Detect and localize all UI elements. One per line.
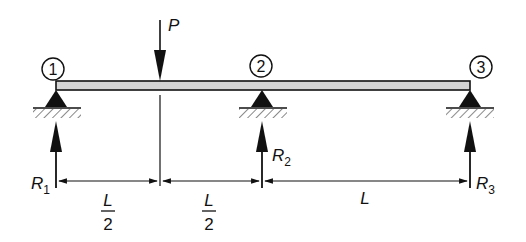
dimension-2: L 2 [163,181,259,234]
dimension-2-denominator: 2 [204,215,213,234]
reaction-label-r1: R1 [31,174,50,197]
arrow-up-icon [256,121,268,152]
node-label-1: 1 [49,61,58,78]
ground-hatch-icon [33,109,81,118]
dimension-2-numerator: L [204,191,213,210]
node-marker-2: 2 [250,55,272,77]
ground-hatch-icon [446,109,494,118]
pin-support-2 [239,90,287,118]
node-label-3: 3 [477,59,486,76]
pin-support-1 [33,90,81,118]
ground-hatch-icon [239,109,287,118]
node-marker-3: 3 [470,56,492,78]
arrow-up-icon [50,121,62,152]
node-marker-1: 1 [42,58,64,80]
reaction-arrow-r3: R3 [464,121,495,197]
reaction-arrow-r2: R2 [256,121,291,188]
dimension-1-denominator: 2 [103,215,112,234]
dimension-1-numerator: L [103,191,112,210]
node-label-2: 2 [257,58,266,75]
reaction-label-r3: R3 [476,174,495,197]
dimension-3: L [265,181,467,208]
arrow-down-icon [154,50,166,81]
arrow-up-icon [464,121,476,152]
beam-diagram: 1 2 3 P R1 R2 [0,0,526,242]
pin-support-3 [446,90,494,118]
load-label: P [168,16,180,35]
dimension-1: L 2 [59,181,157,234]
beam [56,81,470,90]
dimension-3-label: L [360,189,369,208]
load-arrow-p: P [154,16,180,81]
reaction-arrow-r1: R1 [31,121,62,197]
reaction-label-r2: R2 [272,146,291,169]
